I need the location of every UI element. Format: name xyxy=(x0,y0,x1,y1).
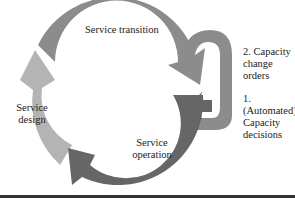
service-operation-line2: operation xyxy=(122,149,182,161)
loop-label-1-line3: orders xyxy=(243,70,291,82)
service-operation-label: Service operation xyxy=(122,137,182,161)
loop-label-2-line1: 1. (Automated) xyxy=(243,93,295,117)
service-design-line2: design xyxy=(13,114,51,126)
service-design-line1: Service xyxy=(13,102,51,114)
capacity-change-orders-label: 2. Capacity change orders xyxy=(243,46,291,82)
loop-label-1-line1: 2. Capacity xyxy=(243,46,291,58)
service-design-label: Service design xyxy=(13,102,51,126)
service-operation-line1: Service xyxy=(122,137,182,149)
bottom-rule xyxy=(0,195,295,198)
automated-capacity-decisions-label: 1. (Automated) Capacity decisions xyxy=(243,93,295,141)
loop-label-1-line2: change xyxy=(243,58,291,70)
loop-label-2-line3: decisions xyxy=(243,129,295,141)
loop-label-2-line2: Capacity xyxy=(243,117,295,129)
service-transition-label: Service transition xyxy=(85,24,159,36)
service-transition-arrow xyxy=(38,0,205,85)
service-transition-text: Service transition xyxy=(85,24,159,35)
